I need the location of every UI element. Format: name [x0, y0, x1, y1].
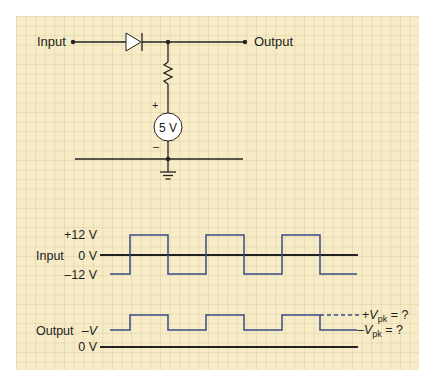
- source-minus-sign: –: [153, 140, 160, 152]
- output-zero-label: 0 V: [78, 340, 97, 354]
- output-terminal-dot: [243, 40, 247, 44]
- source-voltage-label: 5 V: [159, 121, 177, 135]
- input-level-zero: 0 V: [78, 249, 97, 263]
- input-level-plus12: +12 V: [64, 228, 98, 242]
- input-row-label: Input: [36, 249, 64, 263]
- input-terminal-label: Input: [37, 34, 66, 49]
- clipper-circuit-figure: Input Output 5 V + –: [0, 0, 436, 385]
- graph-paper-grid: [16, 16, 419, 370]
- junction-node-bottom: [166, 157, 170, 161]
- input-level-minus12: –12 V: [64, 268, 97, 282]
- source-plus-sign: +: [152, 99, 158, 111]
- output-level-label: –V: [81, 324, 99, 338]
- output-terminal-label: Output: [254, 34, 293, 49]
- output-row-label: Output: [36, 324, 74, 338]
- dc-voltage-source-icon: 5 V: [154, 113, 182, 141]
